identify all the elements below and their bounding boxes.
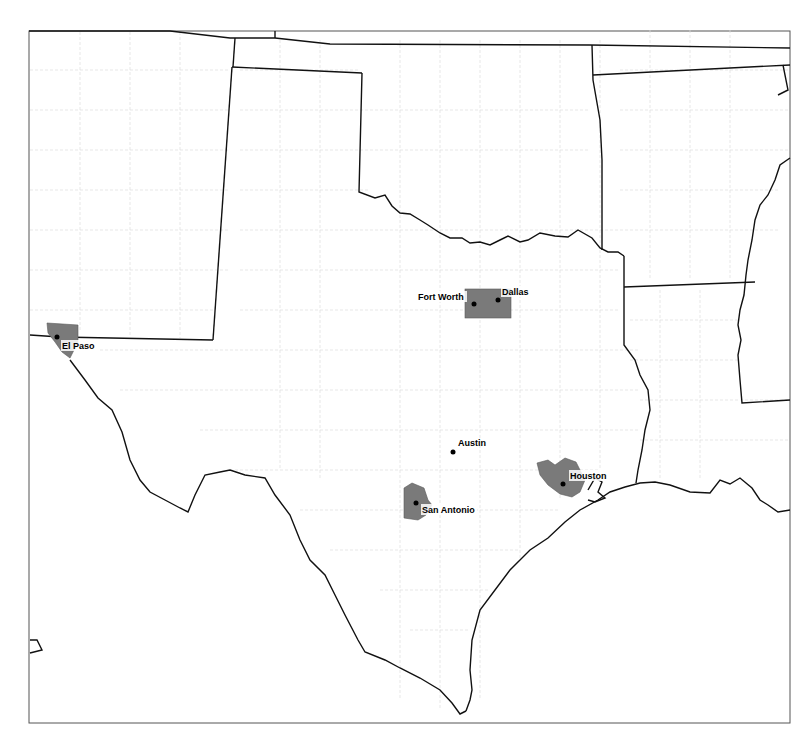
label-san-antonio: San Antonio bbox=[422, 505, 475, 515]
map-canvas[interactable]: El Paso Fort Worth Dallas Austin San Ant… bbox=[0, 0, 807, 742]
map-frame-border bbox=[29, 31, 790, 723]
city-point-austin[interactable] bbox=[451, 450, 456, 455]
label-austin: Austin bbox=[458, 438, 486, 448]
city-point-fort-worth[interactable] bbox=[472, 302, 477, 307]
map-view[interactable]: El Paso Fort Worth Dallas Austin San Ant… bbox=[0, 0, 807, 742]
city-point-el-paso[interactable] bbox=[55, 335, 60, 340]
label-dallas: Dallas bbox=[502, 287, 529, 297]
label-fort-worth: Fort Worth bbox=[418, 292, 464, 302]
city-point-san-antonio[interactable] bbox=[414, 501, 419, 506]
label-houston: Houston bbox=[570, 471, 607, 481]
city-point-dallas[interactable] bbox=[496, 298, 501, 303]
label-el-paso: El Paso bbox=[62, 341, 95, 351]
city-point-houston[interactable] bbox=[561, 482, 566, 487]
